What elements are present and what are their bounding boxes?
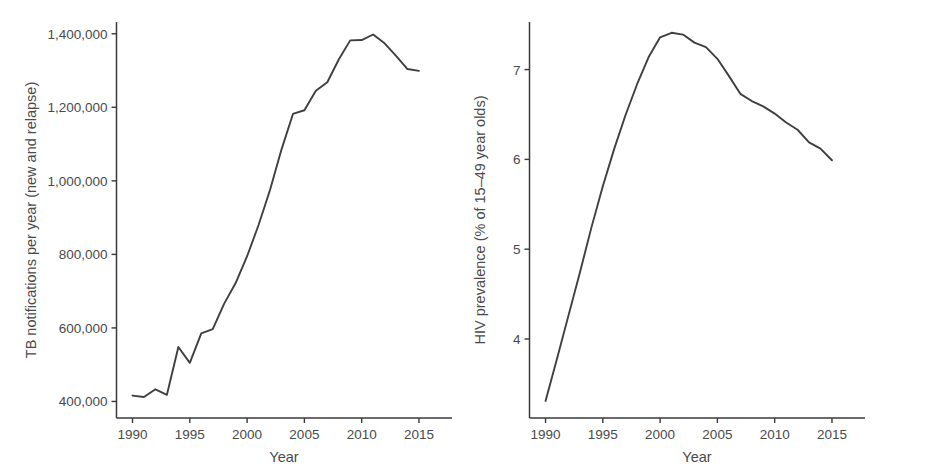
x-tick-group: 199019952000200520102015 bbox=[530, 418, 846, 442]
x-axis-group: 199019952000200520102015 Year bbox=[529, 418, 865, 465]
x-tick-label: 2015 bbox=[404, 427, 434, 442]
y-tick-label: 6 bbox=[512, 152, 520, 167]
y-tick-label: 800,000 bbox=[59, 247, 108, 262]
x-tick-label: 1995 bbox=[587, 427, 617, 442]
x-tick-label: 2005 bbox=[702, 427, 732, 442]
y-axis-group: 400,000600,000800,0001,000,0001,200,0001… bbox=[23, 22, 117, 418]
y-tick-label: 600,000 bbox=[59, 321, 108, 336]
x-tick-label: 2010 bbox=[759, 427, 789, 442]
y-tick-label: 4 bbox=[512, 332, 520, 347]
panel-tb-notifications: 400,000600,000800,0001,000,0001,200,0001… bbox=[0, 0, 465, 475]
y-axis-title: HIV prevalence (% of 15–49 year olds) bbox=[472, 95, 488, 344]
y-tick-group: 4567 bbox=[512, 63, 529, 347]
y-tick-label: 1,000,000 bbox=[47, 174, 107, 189]
x-tick-label: 1990 bbox=[530, 427, 560, 442]
tb-notifications-chart: 400,000600,000800,0001,000,0001,200,0001… bbox=[0, 0, 464, 475]
y-tick-label: 1,400,000 bbox=[47, 27, 107, 42]
hiv-prevalence-series-line bbox=[545, 33, 831, 401]
x-tick-label: 2010 bbox=[347, 427, 377, 442]
x-axis-group: 199019952000200520102015 Year bbox=[117, 418, 453, 465]
y-tick-label: 1,200,000 bbox=[47, 100, 107, 115]
x-tick-group: 199019952000200520102015 bbox=[118, 418, 434, 442]
y-axis-group: 4567 HIV prevalence (% of 15–49 year old… bbox=[472, 22, 530, 418]
panel-hiv-prevalence: 4567 HIV prevalence (% of 15–49 year old… bbox=[465, 0, 929, 475]
x-tick-label: 2005 bbox=[289, 427, 319, 442]
y-tick-label: 5 bbox=[512, 242, 520, 257]
y-tick-label: 400,000 bbox=[59, 394, 108, 409]
figure-container: 400,000600,000800,0001,000,0001,200,0001… bbox=[0, 0, 929, 475]
x-tick-label: 2015 bbox=[816, 427, 846, 442]
x-tick-label: 1990 bbox=[118, 427, 148, 442]
x-axis-title: Year bbox=[682, 449, 711, 465]
y-tick-group: 400,000600,000800,0001,000,0001,200,0001… bbox=[47, 27, 116, 410]
y-axis-title: TB notifications per year (new and relap… bbox=[23, 82, 39, 358]
x-tick-label: 2000 bbox=[645, 427, 675, 442]
tb-notifications-series-line bbox=[133, 35, 419, 398]
x-tick-label: 2000 bbox=[232, 427, 262, 442]
x-tick-label: 1995 bbox=[175, 427, 205, 442]
y-tick-label: 7 bbox=[512, 63, 520, 78]
hiv-prevalence-chart: 4567 HIV prevalence (% of 15–49 year old… bbox=[465, 0, 929, 475]
x-axis-title: Year bbox=[269, 449, 298, 465]
